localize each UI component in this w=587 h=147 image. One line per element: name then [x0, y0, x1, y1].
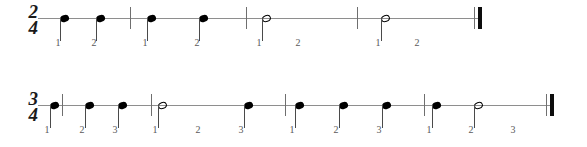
barline — [130, 7, 131, 29]
beat-number: 1 — [251, 37, 267, 48]
time-signature-denominator: 4 — [22, 107, 44, 123]
beat-number: 1 — [370, 37, 386, 48]
beat-number: 2 — [409, 37, 425, 48]
beat-number: 2 — [190, 124, 206, 135]
rhythm-notation-sheet: 241212121234123123123123 — [0, 0, 587, 147]
final-barline-thin — [474, 7, 475, 29]
barline — [424, 94, 425, 116]
final-barline-thin — [546, 94, 547, 116]
beat-number: 1 — [147, 124, 163, 135]
beat-number: 3 — [233, 124, 249, 135]
beat-number: 1 — [284, 124, 300, 135]
beat-number: 1 — [421, 124, 437, 135]
barline — [62, 94, 63, 116]
beat-number: 2 — [189, 37, 205, 48]
beat-number: 1 — [39, 124, 55, 135]
time-signature: 34 — [22, 91, 44, 122]
beat-number: 3 — [371, 124, 387, 135]
beat-number: 2 — [86, 37, 102, 48]
barline — [357, 7, 358, 29]
final-barline-thick — [478, 7, 482, 29]
time-signature-denominator: 4 — [22, 20, 44, 36]
beat-number: 1 — [137, 37, 153, 48]
beat-number: 2 — [463, 124, 479, 135]
barline — [151, 94, 152, 116]
time-signature: 24 — [22, 4, 44, 35]
final-barline-thick — [550, 94, 554, 116]
beat-number: 2 — [290, 37, 306, 48]
beat-number: 3 — [505, 124, 521, 135]
beat-number: 2 — [74, 124, 90, 135]
barline — [246, 7, 247, 29]
barline — [285, 94, 286, 116]
beat-number: 1 — [50, 37, 66, 48]
beat-number: 3 — [107, 124, 123, 135]
beat-number: 2 — [328, 124, 344, 135]
